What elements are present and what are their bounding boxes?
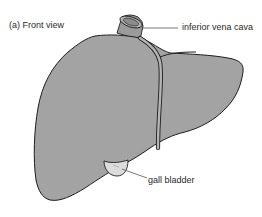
- gall-bladder-leader-line: [122, 169, 147, 178]
- liver-illustration: [0, 0, 262, 217]
- liver-front-view-diagram: (a) Front view inferior vena cava gall b…: [0, 0, 262, 217]
- liver-outline: [34, 35, 243, 200]
- label-gall-bladder: gall bladder: [148, 176, 195, 185]
- label-inferior-vena-cava: inferior vena cava: [182, 23, 253, 32]
- panel-title: (a) Front view: [9, 21, 64, 30]
